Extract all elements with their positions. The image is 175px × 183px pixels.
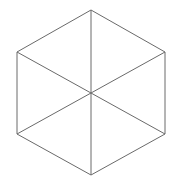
spoke-line-lower-right (91, 93, 165, 134)
spoke-line-lower-left (17, 93, 91, 134)
hexagon-diagram (0, 0, 175, 183)
spoke-line-upper-right (91, 52, 165, 93)
hexagon-spokes (17, 10, 165, 175)
spoke-line-upper-left (17, 52, 91, 93)
